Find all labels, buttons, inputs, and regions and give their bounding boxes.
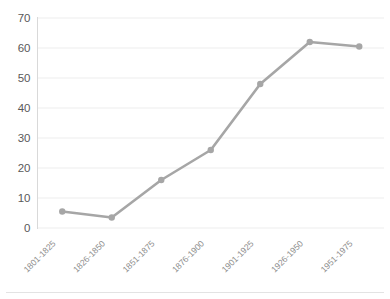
y-axis-tick-label: 70 bbox=[18, 12, 31, 24]
line-chart: 010203040506070 1801-18251826-18501851-1… bbox=[0, 0, 390, 299]
y-axis-tick-label: 10 bbox=[18, 192, 31, 204]
y-axis-tick-label: 0 bbox=[24, 222, 30, 234]
data-point-marker bbox=[356, 43, 362, 49]
chart-canvas: 010203040506070 1801-18251826-18501851-1… bbox=[0, 0, 390, 299]
y-axis-tick-label: 20 bbox=[18, 162, 31, 174]
y-axis-tick-label: 60 bbox=[18, 42, 31, 54]
data-point-marker bbox=[208, 147, 214, 153]
data-point-marker bbox=[59, 208, 65, 214]
data-point-marker bbox=[158, 177, 164, 183]
data-point-marker bbox=[307, 39, 313, 45]
y-axis-tick-label: 30 bbox=[18, 132, 31, 144]
data-point-marker bbox=[257, 81, 263, 87]
y-axis-tick-label: 50 bbox=[18, 72, 31, 84]
y-axis-tick-label: 40 bbox=[18, 102, 31, 114]
data-point-marker bbox=[109, 214, 115, 220]
